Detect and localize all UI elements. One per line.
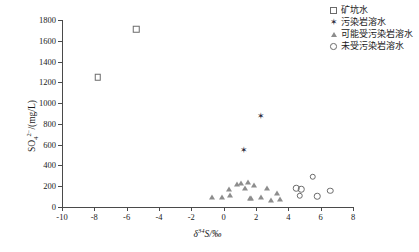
x-tick bbox=[353, 207, 354, 211]
x-tick-label: -2 bbox=[188, 213, 195, 222]
legend-marker-circle-open-icon bbox=[330, 43, 337, 50]
x-tick bbox=[62, 207, 63, 211]
x-tick-label: -10 bbox=[56, 213, 67, 222]
legend: 矿坑水污染岩溶水可能受污染岩溶水未受污染岩溶水 bbox=[330, 5, 413, 52]
y-tick-label: 600 bbox=[43, 140, 56, 149]
x-tick-label: 8 bbox=[351, 213, 355, 222]
y-tick-label: 800 bbox=[43, 120, 56, 129]
legend-label: 污染岩溶水 bbox=[341, 17, 386, 28]
data-point bbox=[94, 74, 101, 81]
legend-marker bbox=[330, 19, 337, 26]
y-axis-title-main: SO bbox=[27, 140, 37, 152]
y-axis-title-unit: /(mg/L) bbox=[27, 100, 37, 130]
y-tick-label: 1000 bbox=[39, 99, 56, 108]
legend-item: 污染岩溶水 bbox=[330, 17, 413, 28]
x-tick bbox=[159, 207, 160, 211]
legend-marker bbox=[330, 31, 337, 38]
legend-marker-star-icon bbox=[330, 19, 338, 26]
legend-label: 可能受污染岩溶水 bbox=[341, 29, 413, 40]
y-tick bbox=[58, 165, 62, 166]
x-tick-label: 0 bbox=[222, 213, 226, 222]
x-tick bbox=[94, 207, 95, 211]
y-tick-label: 1800 bbox=[39, 16, 56, 25]
y-tick bbox=[58, 145, 62, 146]
data-point bbox=[314, 193, 321, 200]
data-point bbox=[264, 185, 270, 190]
data-point bbox=[277, 196, 283, 201]
plot-area: 020040060080010001200140016001800 -10-8-… bbox=[62, 20, 353, 207]
legend-marker bbox=[330, 43, 337, 50]
x-tick bbox=[288, 207, 289, 211]
y-tick bbox=[58, 41, 62, 42]
legend-item: 未受污染岩溶水 bbox=[330, 41, 413, 52]
y-tick-label: 1600 bbox=[39, 37, 56, 46]
x-axis-title: δ34S/‰ bbox=[62, 227, 353, 239]
x-tick bbox=[321, 207, 322, 211]
y-tick-label: 0 bbox=[52, 203, 56, 212]
data-point bbox=[242, 186, 248, 191]
legend-item: 可能受污染岩溶水 bbox=[330, 29, 413, 40]
data-point bbox=[227, 192, 233, 197]
x-tick bbox=[256, 207, 257, 211]
legend-marker-square-open-icon bbox=[330, 7, 337, 14]
data-point bbox=[209, 195, 215, 200]
y-tick-label: 200 bbox=[43, 182, 56, 191]
x-tick bbox=[191, 207, 192, 211]
legend-item: 矿坑水 bbox=[330, 5, 413, 16]
y-tick bbox=[58, 124, 62, 125]
y-tick-label: 400 bbox=[43, 161, 56, 170]
data-point bbox=[258, 195, 264, 200]
y-tick-label: 1400 bbox=[39, 57, 56, 66]
y-tick bbox=[58, 103, 62, 104]
data-point bbox=[245, 180, 251, 185]
data-point bbox=[268, 197, 274, 202]
data-point bbox=[226, 186, 232, 191]
data-point bbox=[133, 26, 140, 33]
x-tick-label: 2 bbox=[254, 213, 258, 222]
y-tick bbox=[58, 82, 62, 83]
y-tick bbox=[58, 20, 62, 21]
data-point bbox=[251, 182, 257, 187]
x-tick-label: -4 bbox=[155, 213, 162, 222]
data-point bbox=[248, 196, 254, 201]
y-axis-title: SO42−/(mg/L) bbox=[25, 100, 39, 152]
legend-label: 未受污染岩溶水 bbox=[341, 41, 404, 52]
x-tick-label: 6 bbox=[319, 213, 323, 222]
legend-marker-triangle-open-icon bbox=[331, 32, 337, 37]
y-axis-title-sup: 2− bbox=[25, 130, 32, 137]
scatter-chart: SO42−/(mg/L) δ34S/‰ 02004006008001000120… bbox=[0, 0, 419, 252]
data-point bbox=[240, 147, 247, 154]
data-point bbox=[296, 192, 303, 199]
y-tick-label: 1200 bbox=[39, 78, 56, 87]
data-point bbox=[309, 174, 316, 181]
y-axis-title-sub: 4 bbox=[32, 137, 39, 140]
x-tick-label: -8 bbox=[91, 213, 98, 222]
y-tick bbox=[58, 186, 62, 187]
y-tick bbox=[58, 62, 62, 63]
x-tick bbox=[224, 207, 225, 211]
y-axis-line bbox=[62, 20, 63, 207]
x-tick bbox=[127, 207, 128, 211]
data-point bbox=[238, 180, 244, 185]
data-point bbox=[327, 188, 334, 195]
data-point bbox=[257, 113, 264, 120]
legend-marker bbox=[330, 7, 337, 14]
x-axis-line bbox=[62, 207, 353, 208]
legend-label: 矿坑水 bbox=[341, 5, 368, 16]
x-tick-label: -6 bbox=[123, 213, 130, 222]
x-axis-title-unit: /‰ bbox=[209, 229, 221, 239]
data-point bbox=[219, 194, 225, 199]
x-tick-label: 4 bbox=[286, 213, 290, 222]
